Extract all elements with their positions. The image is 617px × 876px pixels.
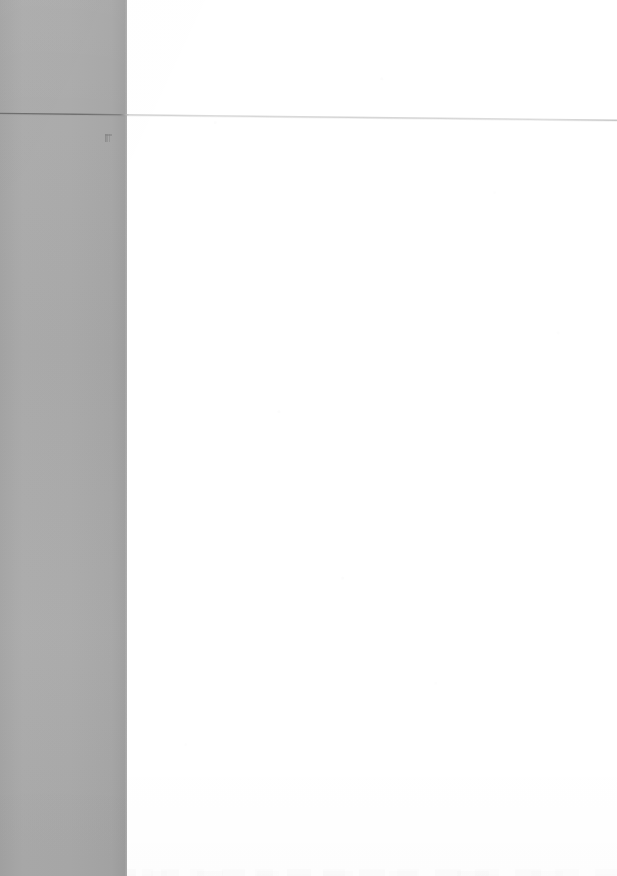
scanned-page <box>0 0 617 876</box>
scanner-gutter-band <box>0 0 127 876</box>
page-body <box>127 0 617 876</box>
